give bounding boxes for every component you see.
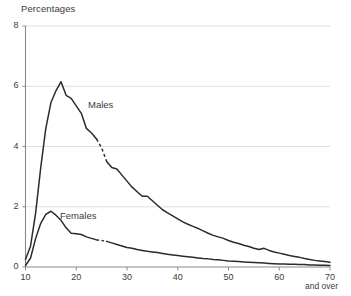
series-line-males-solid-left bbox=[26, 82, 97, 260]
series-line-males-solid-right bbox=[107, 162, 330, 263]
series-line-males-dashed bbox=[97, 139, 107, 162]
y-tick-label-0: 0 bbox=[3, 261, 19, 271]
x-tick-label-30: 30 bbox=[114, 272, 140, 282]
y-tick-label-4: 4 bbox=[3, 141, 19, 151]
chart-container: Percentages 02468 10203040506070 and ove… bbox=[0, 0, 351, 296]
y-tick-label-2: 2 bbox=[3, 201, 19, 211]
series-line-females-dashed bbox=[97, 240, 107, 242]
series-lines bbox=[26, 82, 331, 266]
series-label-males: Males bbox=[88, 99, 113, 110]
x-tick-label-40: 40 bbox=[165, 272, 191, 282]
chart-plot-area bbox=[0, 0, 351, 296]
y-tick-label-6: 6 bbox=[3, 80, 19, 90]
x-tick-label-50: 50 bbox=[216, 272, 242, 282]
x-tick-label-20: 20 bbox=[63, 272, 89, 282]
x-tick-label-10: 10 bbox=[13, 272, 39, 282]
y-tick-label-8: 8 bbox=[3, 20, 19, 30]
gridlines bbox=[26, 26, 331, 207]
x-axis-and-over-note: and over bbox=[305, 281, 338, 291]
x-tick-label-60: 60 bbox=[266, 272, 292, 282]
series-line-females-solid-right bbox=[107, 241, 330, 265]
tick-marks bbox=[23, 26, 331, 271]
series-label-females: Females bbox=[60, 210, 96, 221]
